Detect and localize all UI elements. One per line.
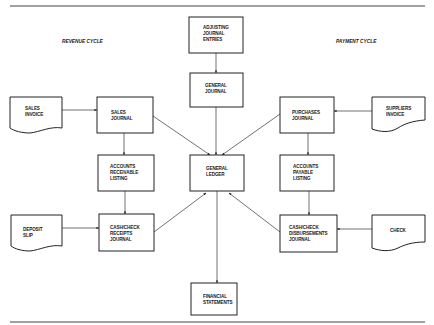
- svg-text:JOURNAL: JOURNAL: [203, 31, 225, 36]
- svg-text:STATEMENTS: STATEMENTS: [203, 300, 232, 305]
- svg-text:INVOICE: INVOICE: [386, 112, 404, 117]
- payment-cycle-label: PAYMENT CYCLE: [336, 39, 377, 44]
- doc-suppliers-invoice: SUPPLIERS INVOICE: [372, 97, 425, 132]
- svg-text:LEDGER: LEDGER: [206, 172, 225, 177]
- svg-text:SALES: SALES: [25, 106, 40, 111]
- svg-text:LISTING: LISTING: [293, 176, 311, 181]
- svg-text:PURCHASES: PURCHASES: [292, 110, 320, 115]
- svg-text:CASH/CHECK: CASH/CHECK: [289, 225, 319, 230]
- svg-text:JOURNAL: JOURNAL: [111, 116, 133, 121]
- svg-text:PAYABLE: PAYABLE: [293, 170, 313, 175]
- svg-text:FINANCIAL: FINANCIAL: [203, 294, 227, 299]
- accounting-flow-diagram: REVENUE CYCLE PAYMENT CYCLE ADJUSTING JO…: [0, 0, 434, 325]
- arrow-cash-receipts-to-ledger: [154, 193, 206, 232]
- node-financial-statements: FINANCIAL STATEMENTS: [191, 283, 237, 315]
- doc-check: CHECK: [372, 215, 425, 251]
- svg-text:CHECK: CHECK: [390, 228, 407, 233]
- svg-text:LISTING: LISTING: [110, 176, 128, 181]
- svg-text:JOURNAL: JOURNAL: [292, 116, 314, 121]
- arrow-purchases-to-ledger: [222, 114, 280, 155]
- node-accounts-receivable-listing: ACCOUNTS RECEIVABLE LISTING: [98, 155, 154, 191]
- svg-text:SALES: SALES: [111, 110, 126, 115]
- node-general-ledger: GENERAL LEDGER: [190, 155, 244, 191]
- node-purchases-journal: PURCHASES JOURNAL: [280, 97, 334, 133]
- node-sales-journal: SALES JOURNAL: [97, 97, 153, 133]
- svg-text:JOURNAL: JOURNAL: [205, 89, 227, 94]
- svg-text:RECEIVABLE: RECEIVABLE: [110, 170, 138, 175]
- doc-sales-invoice: SALES INVOICE: [10, 97, 62, 133]
- svg-text:CASH/CHECK: CASH/CHECK: [110, 225, 140, 230]
- node-accounts-payable-listing: ACCOUNTS PAYABLE LISTING: [280, 155, 334, 191]
- node-general-journal: GENERAL JOURNAL: [190, 73, 243, 107]
- svg-text:GENERAL: GENERAL: [206, 166, 228, 171]
- svg-text:GENERAL: GENERAL: [205, 83, 227, 88]
- node-cash-check-disbursements-journal: CASH/CHECK DISBURSEMENTS JOURNAL: [280, 215, 337, 252]
- arrow-sales-journal-to-ledger: [153, 116, 210, 155]
- doc-deposit-slip: DEPOSIT SLIP: [11, 215, 62, 251]
- svg-text:SLIP: SLIP: [23, 233, 33, 238]
- revenue-cycle-label: REVENUE CYCLE: [62, 39, 104, 44]
- svg-text:ADJUSTING: ADJUSTING: [203, 25, 229, 30]
- svg-text:INVOICE: INVOICE: [25, 112, 43, 117]
- svg-text:JOURNAL: JOURNAL: [289, 237, 311, 242]
- svg-text:ACCOUNTS: ACCOUNTS: [110, 164, 135, 169]
- svg-text:JOURNAL: JOURNAL: [110, 237, 132, 242]
- svg-text:DISBURSEMENTS: DISBURSEMENTS: [289, 231, 328, 236]
- svg-text:SUPPLIERS: SUPPLIERS: [386, 106, 411, 111]
- svg-text:ACCOUNTS: ACCOUNTS: [293, 164, 318, 169]
- arrow-cash-disbursements-to-ledger: [229, 193, 280, 232]
- svg-text:RECEIPTS: RECEIPTS: [110, 231, 132, 236]
- node-adjusting-journal-entries: ADJUSTING JOURNAL ENTRIES: [189, 17, 243, 53]
- svg-text:DEPOSIT: DEPOSIT: [23, 227, 43, 232]
- svg-text:ENTRIES: ENTRIES: [203, 37, 222, 42]
- node-cash-check-receipts-journal: CASH/CHECK RECEIPTS JOURNAL: [99, 214, 154, 251]
